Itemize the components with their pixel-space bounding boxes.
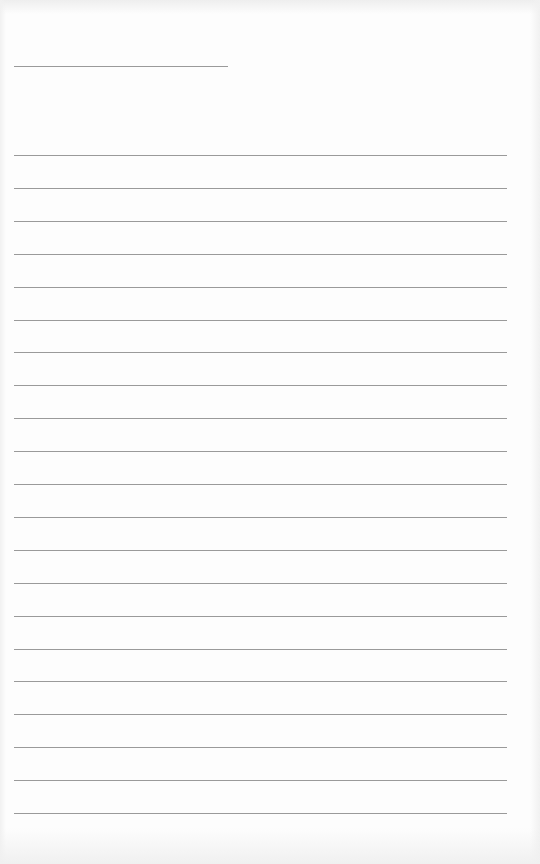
ruled-line[interactable] bbox=[14, 352, 507, 353]
ruled-line[interactable] bbox=[14, 616, 507, 617]
ruled-line[interactable] bbox=[14, 813, 507, 814]
lined-paper-page bbox=[0, 0, 540, 864]
ruled-line[interactable] bbox=[14, 451, 507, 452]
ruled-line-text bbox=[14, 681, 507, 682]
ruled-line[interactable] bbox=[14, 517, 507, 518]
page-edge-shadow-right bbox=[530, 0, 540, 864]
ruled-line-text bbox=[14, 550, 507, 551]
ruled-line-text bbox=[14, 649, 507, 650]
header-line-text bbox=[14, 66, 228, 67]
ruled-line[interactable] bbox=[14, 320, 507, 321]
ruled-line-text bbox=[14, 352, 507, 353]
ruled-line-text bbox=[14, 385, 507, 386]
ruled-line[interactable] bbox=[14, 155, 507, 156]
ruled-line[interactable] bbox=[14, 484, 507, 485]
ruled-line-text bbox=[14, 320, 507, 321]
ruled-line[interactable] bbox=[14, 681, 507, 682]
ruled-line-text bbox=[14, 155, 507, 156]
ruled-line[interactable] bbox=[14, 649, 507, 650]
ruled-line-text bbox=[14, 287, 507, 288]
ruled-line-text bbox=[14, 418, 507, 419]
ruled-line[interactable] bbox=[14, 780, 507, 781]
ruled-line[interactable] bbox=[14, 221, 507, 222]
ruled-line[interactable] bbox=[14, 747, 507, 748]
ruled-line-text bbox=[14, 254, 507, 255]
ruled-line[interactable] bbox=[14, 385, 507, 386]
ruled-line[interactable] bbox=[14, 583, 507, 584]
ruled-line-text bbox=[14, 484, 507, 485]
page-edge-shadow-left bbox=[0, 0, 6, 864]
header-title-line[interactable] bbox=[14, 66, 228, 67]
ruled-line[interactable] bbox=[14, 714, 507, 715]
ruled-line-text bbox=[14, 714, 507, 715]
ruled-line-text bbox=[14, 583, 507, 584]
ruled-line-text bbox=[14, 188, 507, 189]
ruled-line-text bbox=[14, 451, 507, 452]
ruled-line-text bbox=[14, 616, 507, 617]
ruled-line-text bbox=[14, 747, 507, 748]
ruled-line[interactable] bbox=[14, 550, 507, 551]
ruled-line[interactable] bbox=[14, 418, 507, 419]
ruled-line-text bbox=[14, 813, 507, 814]
ruled-line[interactable] bbox=[14, 188, 507, 189]
ruled-line[interactable] bbox=[14, 254, 507, 255]
ruled-line-text bbox=[14, 221, 507, 222]
ruled-line-text bbox=[14, 517, 507, 518]
ruled-line[interactable] bbox=[14, 287, 507, 288]
ruled-line-text bbox=[14, 780, 507, 781]
